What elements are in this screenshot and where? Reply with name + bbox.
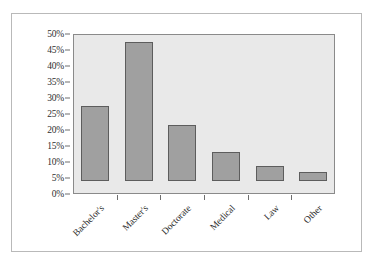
x-axis-labels: Bachelor'sMaster'sDoctorateMedicalLawOth… [12,14,361,251]
figure-frame: 0%5%10%15%20%25%30%35%40%45%50% Bachelor… [11,13,362,252]
bar-chart: 0%5%10%15%20%25%30%35%40%45%50% Bachelor… [12,14,361,251]
